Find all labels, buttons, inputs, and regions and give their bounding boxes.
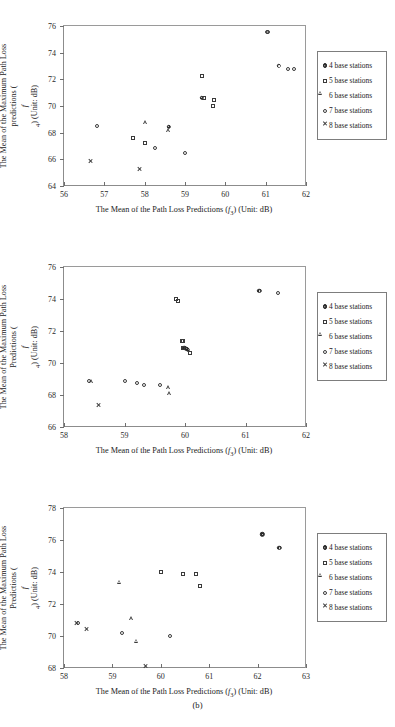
open-circle-icon — [323, 109, 327, 113]
y-tick-label: 70 — [48, 632, 56, 641]
open-circle-icon — [323, 591, 327, 595]
y-tick — [60, 668, 64, 669]
y-tick — [60, 133, 64, 134]
y-tick-label: 74 — [48, 48, 56, 57]
x-tick-label: 62 — [302, 431, 310, 440]
open-circle-icon — [323, 350, 327, 354]
data-point — [159, 570, 163, 574]
legend-item: 4 base stations — [321, 540, 383, 555]
plot-area-2: 5859606162666870727476 — [63, 267, 305, 427]
legend-item: 7 base stations — [321, 344, 383, 359]
y-tick-label: 68 — [48, 128, 56, 137]
data-point — [143, 120, 147, 124]
x-tick-label: 59 — [108, 672, 116, 681]
legend-label: 4 base stations — [329, 302, 372, 311]
data-point — [118, 580, 122, 584]
data-point — [292, 67, 296, 71]
open-square-icon — [323, 79, 327, 83]
legend-label: 6 base stations — [329, 91, 372, 100]
plot-top-rule — [63, 507, 306, 508]
legend-marker-icon — [321, 302, 329, 312]
legend-label: 7 base stations — [329, 106, 372, 115]
x-tick-label: 59 — [181, 190, 189, 199]
x-tick — [64, 423, 65, 427]
legend-item: 8 base stations — [321, 118, 383, 133]
data-point — [168, 391, 172, 395]
filled-circle-dot-icon — [323, 304, 327, 308]
y-tick-label: 68 — [48, 391, 56, 400]
data-point — [286, 67, 290, 71]
y-tick-label: 76 — [48, 536, 56, 545]
legend-item: 4 base stations — [321, 299, 383, 314]
y-axis-title: The Mean of the Maximum Path LossPredict… — [10, 267, 32, 427]
data-point — [95, 124, 99, 128]
x-tick-label: 59 — [121, 431, 129, 440]
data-point — [135, 639, 139, 643]
data-point — [183, 151, 187, 155]
y-tick-label: 72 — [48, 600, 56, 609]
legend-item: 7 base stations — [321, 103, 383, 118]
legend-2: 4 base stations5 base stations6 base sta… — [317, 292, 387, 381]
y-tick — [60, 267, 64, 268]
data-point — [181, 339, 185, 343]
open-triangle-icon — [323, 335, 327, 339]
x-tick-label: 60 — [157, 672, 165, 681]
x-tick — [185, 423, 186, 427]
cross-x-icon — [323, 364, 328, 369]
y-tick-label: 70 — [48, 359, 56, 368]
x-tick-label: 62 — [302, 190, 310, 199]
y-tick — [60, 636, 64, 637]
legend-marker-icon — [321, 106, 329, 116]
legend-marker-icon — [321, 317, 329, 327]
y-tick — [60, 508, 64, 509]
x-tick — [145, 182, 146, 186]
data-point — [137, 166, 142, 171]
data-point — [181, 346, 185, 350]
legend-item: 6 base stations — [321, 329, 383, 344]
plot-top-rule — [63, 25, 306, 26]
x-tick-label: 58 — [60, 431, 68, 440]
data-point — [142, 383, 146, 387]
y-tick — [60, 363, 64, 364]
legend-3: 4 base stations5 base stations6 base sta… — [317, 533, 387, 622]
y-tick — [60, 395, 64, 396]
x-tick — [112, 664, 113, 668]
legend-item: 6 base stations — [321, 570, 383, 585]
plot-area-3: 585960616263687072747678 — [63, 508, 305, 668]
data-point — [123, 379, 127, 383]
chart-panel-1: 5657585960616264666870727476The Mean of … — [0, 4, 395, 236]
data-point — [87, 379, 91, 383]
cross-x-icon — [323, 123, 328, 128]
y-tick — [60, 159, 64, 160]
data-point — [84, 626, 89, 631]
legend-label: 8 base stations — [329, 603, 372, 612]
x-tick-label: 58 — [141, 190, 149, 199]
y-tick-label: 76 — [48, 22, 56, 31]
y-tick-label: 66 — [48, 423, 56, 432]
x-tick — [306, 423, 307, 427]
y-tick-label: 68 — [48, 664, 56, 673]
data-point — [143, 664, 148, 669]
legend-1: 4 base stations5 base stations6 base sta… — [317, 51, 387, 140]
x-tick-label: 58 — [60, 672, 68, 681]
figure-caption: (b) — [0, 700, 395, 710]
x-tick — [306, 182, 307, 186]
legend-marker-icon — [321, 573, 329, 583]
data-point — [176, 299, 180, 303]
legend-label: 6 base stations — [329, 332, 372, 341]
legend-item: 7 base stations — [321, 585, 383, 600]
data-point — [257, 289, 261, 293]
y-tick-label: 64 — [48, 182, 56, 191]
x-axis-title: The Mean of the Path Loss Predictions (f… — [63, 687, 305, 698]
y-tick — [60, 106, 64, 107]
plot-right-rule — [305, 266, 306, 427]
data-point — [266, 30, 270, 34]
x-tick — [104, 182, 105, 186]
data-point — [212, 98, 216, 102]
data-point — [74, 620, 79, 625]
legend-item: 8 base stations — [321, 359, 383, 374]
legend-marker-icon — [321, 91, 329, 101]
data-point — [143, 141, 147, 145]
y-tick — [60, 427, 64, 428]
legend-label: 6 base stations — [329, 573, 372, 582]
